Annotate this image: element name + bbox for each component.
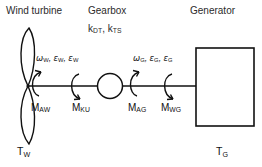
header-wind-turbine: Wind turbine — [6, 6, 62, 16]
torque-turbine-label: TW — [17, 146, 30, 159]
header-gearbox: Gearbox — [88, 6, 126, 16]
moment-ku-sub: KU — [80, 106, 90, 113]
moment-wg: MWG — [161, 103, 181, 114]
torque-generator-label: TG — [216, 146, 228, 159]
stiffness-k1-sub: DT — [93, 27, 102, 34]
moment-ag-sub: AG — [136, 106, 146, 113]
diagram-artwork — [0, 0, 262, 167]
rotor-blade-lower — [21, 86, 35, 144]
gearbox-node — [98, 74, 123, 99]
rotor-hub — [26, 84, 29, 87]
gearbox-stiffness-label: kDT, kTS — [88, 24, 122, 35]
epsilon-w2-sub: W — [73, 57, 79, 63]
moment-wg-sub: WG — [169, 106, 181, 113]
drivetrain-diagram: Wind turbine Gearbox Generator kDT, kTS … — [0, 0, 262, 167]
stiffness-k2-sub: TS — [113, 27, 122, 34]
epsilon-g2-sub: G — [168, 57, 173, 63]
generator-body — [196, 48, 254, 126]
torque-g-sub: G — [222, 151, 228, 159]
kinematics-turbine-label: ωW, εW, εW — [36, 54, 78, 64]
moment-aw-sub: AW — [39, 106, 50, 113]
rotor-blade-upper — [21, 28, 35, 86]
torque-w-sub: W — [23, 151, 30, 159]
kinematics-generator-label: ωG, εG, εG — [133, 54, 173, 64]
torque-arrow-aw — [33, 71, 42, 97]
moment-ag: MAG — [128, 103, 146, 114]
moment-aw: MAW — [31, 103, 50, 114]
moment-ku: MKU — [72, 103, 90, 114]
header-generator: Generator — [190, 6, 235, 16]
torque-arrow-ag — [131, 71, 140, 97]
